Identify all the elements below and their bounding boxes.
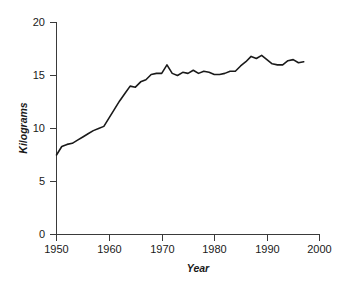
- line-chart-figure: 20 15 10 5 0 1950 1960 1970 1980 1990 20…: [0, 0, 343, 285]
- y-axis-title: Kilograms: [17, 102, 29, 154]
- x-axis-title: Year: [187, 262, 210, 274]
- y-tick-label-15: 15: [33, 69, 45, 81]
- y-tick-label-10: 10: [33, 122, 45, 134]
- x-tick-label-1950: 1950: [44, 243, 68, 255]
- y-tick-label-20: 20: [33, 16, 45, 28]
- chart-canvas: 20 15 10 5 0 1950 1960 1970 1980 1990 20…: [0, 0, 343, 285]
- x-tick-label-1990: 1990: [255, 243, 279, 255]
- y-tick-label-5: 5: [39, 175, 45, 187]
- x-tick-label-2000: 2000: [307, 243, 331, 255]
- x-tick-label-1980: 1980: [202, 243, 226, 255]
- x-tick-label-1970: 1970: [150, 243, 174, 255]
- data-series-line: [57, 55, 304, 155]
- x-tick-label-1960: 1960: [97, 243, 121, 255]
- y-tick-label-0: 0: [39, 228, 45, 240]
